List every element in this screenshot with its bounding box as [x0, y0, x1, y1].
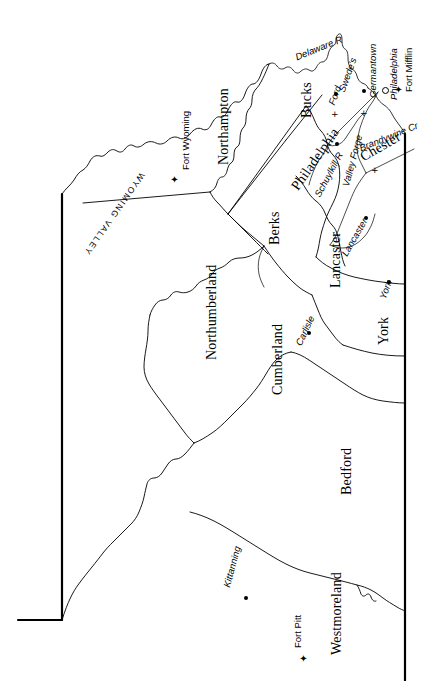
- county-label-berks: Berks: [268, 211, 282, 245]
- county-label-cumberland: Cumberland: [271, 324, 285, 395]
- county-label-york: York: [377, 317, 391, 345]
- battle-marker-germantown: +: [360, 110, 367, 117]
- town-marker-valley-forge: [335, 142, 339, 146]
- county-label-bucks: Bucks: [300, 82, 314, 118]
- town-marker-york: [387, 280, 391, 284]
- fort-marker-fort-wyoming: ✦: [170, 175, 179, 184]
- county-label-northampton: Northampton: [217, 88, 231, 165]
- fort-marker-fort-mifflin: ✦: [394, 85, 403, 94]
- fort-label-fort-mifflin: Fort Mifflin: [404, 48, 414, 92]
- county-label-westmoreland: Westmoreland: [330, 572, 344, 655]
- battle-marker-whitemarsh: +: [331, 111, 338, 118]
- historical-map: Northampton Bucks Philadelphia Chester B…: [0, 0, 445, 681]
- state-border: [18, 134, 405, 681]
- town-label-germantown: Germantown: [368, 44, 378, 98]
- town-marker-carlisle: [307, 331, 311, 335]
- battle-marker-brandywine: +: [371, 167, 378, 174]
- fort-label-fort-wyoming: Fort Wyoming: [181, 111, 191, 170]
- town-marker-kittanning: [244, 596, 248, 600]
- northern-border: [62, 64, 269, 194]
- town-marker-lancaster: [364, 216, 368, 220]
- city-marker-philadelphia: [382, 87, 389, 94]
- county-label-bedford: Bedford: [340, 448, 354, 495]
- town-marker-germantown: [362, 89, 366, 93]
- fort-label-fort-pitt: Fort Pitt: [293, 615, 303, 648]
- county-label-lancaster: Lancaster: [329, 232, 343, 288]
- county-label-northumberland: Northumberland: [205, 265, 219, 360]
- fort-marker-fort-pitt: ✦: [299, 654, 308, 663]
- town-marker-swedes-ford: [334, 92, 338, 96]
